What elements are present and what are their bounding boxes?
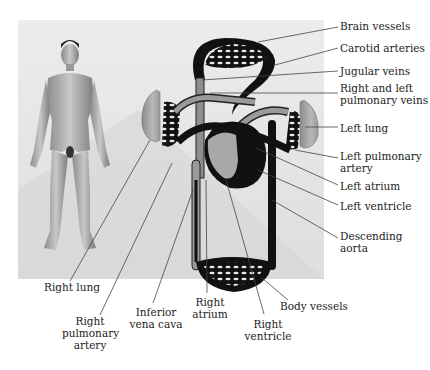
human-figure — [30, 40, 110, 250]
label-pulmonary-veins: Right and left pulmonary veins — [340, 82, 428, 106]
label-line: artery — [62, 339, 118, 351]
label-line: pulmonary veins — [340, 94, 428, 106]
label-left-ventricle: Left ventricle — [340, 200, 412, 212]
label-right-ventricle: Right ventricle — [244, 318, 292, 342]
label-right-lung: Right lung — [44, 281, 100, 293]
label-line: ventricle — [244, 330, 292, 342]
label-left-atrium: Left atrium — [340, 180, 400, 192]
label-jugular-veins: Jugular veins — [340, 65, 410, 77]
label-descending-aorta: Descending aorta — [340, 230, 402, 254]
label-brain-vessels: Brain vessels — [340, 20, 410, 32]
label-line: Right and left — [340, 82, 428, 94]
label-line: Right — [190, 296, 230, 308]
label-line: atrium — [190, 308, 230, 320]
label-carotid-arteries: Carotid arteries — [340, 42, 425, 54]
label-line: pulmonary — [62, 327, 118, 339]
label-line: vena cava — [128, 318, 184, 330]
label-line: aorta — [340, 242, 402, 254]
label-line: Left pulmonary — [340, 150, 422, 162]
label-line: Descending — [340, 230, 402, 242]
label-line: Right — [244, 318, 292, 330]
label-right-atrium: Right atrium — [190, 296, 230, 320]
label-right-pulmonary-artery: Right pulmonary artery — [62, 315, 118, 351]
label-line: artery — [340, 162, 422, 174]
heart — [204, 122, 266, 189]
label-line: Right — [62, 315, 118, 327]
label-line: Inferior — [128, 306, 184, 318]
left-lung-shape — [300, 100, 318, 148]
label-left-lung: Left lung — [340, 122, 388, 134]
label-left-pulmonary-artery: Left pulmonary artery — [340, 150, 422, 174]
right-lung-shape — [142, 90, 160, 142]
label-body-vessels: Body vessels — [280, 300, 348, 312]
label-inferior-vena-cava: Inferior vena cava — [128, 306, 184, 330]
